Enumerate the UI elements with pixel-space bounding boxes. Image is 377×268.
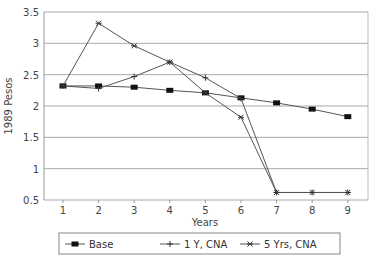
x-tick-label: 5 — [202, 205, 208, 216]
x-tick-label: 3 — [131, 205, 137, 216]
x-tick-label: 4 — [167, 205, 173, 216]
legend-label: 5 Yrs, CNA — [264, 239, 317, 250]
axes: 0.511.522.533.5123456789 — [23, 7, 368, 216]
legend-label: 1 Y, CNA — [184, 239, 227, 250]
x-tick-label: 1 — [60, 205, 66, 216]
gridlines — [44, 12, 368, 200]
series-lines — [60, 21, 352, 196]
y-axis-label: 1989 Pesos — [3, 78, 14, 135]
x-tick-label: 8 — [309, 205, 315, 216]
y-tick-label: 3.5 — [23, 7, 39, 18]
series-1-y-cna — [60, 59, 351, 195]
y-tick-label: 2.5 — [23, 70, 39, 81]
x-tick-label: 7 — [273, 205, 279, 216]
x-tick-label: 9 — [345, 205, 351, 216]
y-tick-label: 3 — [33, 38, 39, 49]
y-tick-label: 1 — [33, 164, 39, 175]
y-tick-label: 1.5 — [23, 132, 39, 143]
legend: Base1 Y, CNA5 Yrs, CNA — [59, 233, 340, 254]
line-chart: 0.511.522.533.5123456789 Years 1989 Peso… — [0, 0, 377, 268]
legend-label: Base — [89, 239, 113, 250]
series-base — [60, 83, 352, 119]
x-tick-label: 2 — [95, 205, 101, 216]
y-tick-label: 0.5 — [23, 195, 39, 206]
x-tick-label: 6 — [238, 205, 244, 216]
x-axis-label: Years — [191, 217, 218, 228]
y-tick-label: 2 — [33, 101, 39, 112]
